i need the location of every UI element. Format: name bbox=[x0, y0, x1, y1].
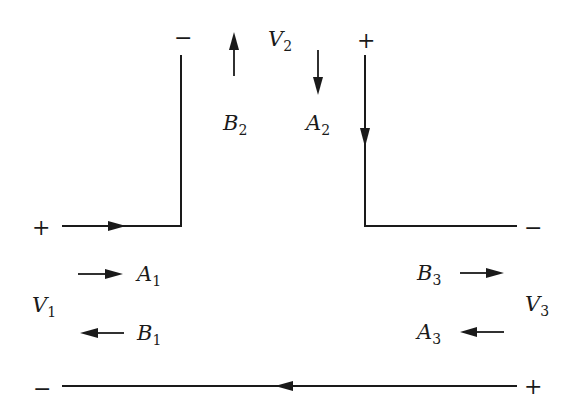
arrow-down-head-icon bbox=[313, 77, 323, 95]
arrow-up-head-icon bbox=[229, 32, 239, 50]
port-2-plus-sign: + bbox=[357, 28, 375, 53]
port-3-minus-sign: − bbox=[524, 215, 542, 240]
reflected-wave-b1-label: B1 bbox=[136, 321, 161, 348]
port-3-group: − + V3 B3 A3 bbox=[415, 215, 549, 399]
current-arrow-right-icon bbox=[108, 221, 126, 231]
incident-wave-a1-label: A1 bbox=[135, 262, 161, 289]
port-1-group: + − V1 A1 B1 bbox=[32, 215, 161, 401]
port-2-minus-sign: − bbox=[174, 25, 192, 50]
port-2-voltage-label: V2 bbox=[268, 27, 292, 54]
reflected-wave-b2-label: B2 bbox=[222, 111, 247, 138]
port-1-plus-sign: + bbox=[32, 215, 50, 240]
port-1-minus-sign: − bbox=[33, 376, 51, 401]
port-2-group: − + V2 B2 A2 bbox=[174, 25, 375, 138]
incident-wave-a2-label: A2 bbox=[304, 111, 330, 138]
arrow-left-head-icon bbox=[80, 328, 98, 338]
reflected-wave-b3-label: B3 bbox=[416, 261, 441, 288]
incident-wave-a3-label: A3 bbox=[415, 320, 441, 347]
upper-left-conductor bbox=[62, 55, 181, 226]
port-3-plus-sign: + bbox=[524, 374, 542, 399]
arrow-right-head-icon bbox=[486, 268, 504, 278]
circuit-wires bbox=[62, 55, 517, 391]
arrow-right-head-icon bbox=[105, 269, 123, 279]
upper-right-conductor bbox=[365, 55, 517, 226]
arrow-left-head-icon bbox=[460, 327, 477, 337]
port-3-voltage-label: V3 bbox=[525, 292, 549, 319]
current-arrow-down-icon bbox=[360, 128, 370, 147]
current-arrow-left-icon bbox=[275, 381, 293, 391]
three-port-diagram: − + V2 B2 A2 + − V1 A1 B1 − + V3 B3 A3 bbox=[0, 0, 575, 415]
port-1-voltage-label: V1 bbox=[32, 293, 56, 320]
